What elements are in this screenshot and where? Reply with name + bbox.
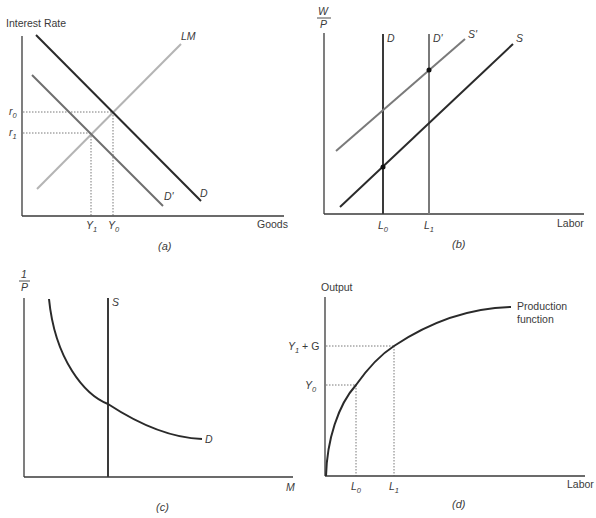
- panel-b-equilibrium-l1: [427, 68, 432, 73]
- panel-d-y1g-tick: Y1 + G: [288, 340, 319, 355]
- panel-c-ylabel-denominator: P: [21, 281, 28, 293]
- panel-a-d-prime-label: D': [164, 190, 175, 202]
- panel-a-lm-curve: [37, 44, 181, 189]
- panel-a-d-curve: [36, 35, 201, 201]
- panel-b-s-label: S: [516, 32, 523, 44]
- panel-c-d-label: D: [205, 433, 213, 445]
- panel-a-r0-tick: r0: [9, 105, 18, 120]
- figure: Interest Rate LM D D' r0 r1 Y1 Y0 Goods …: [0, 0, 596, 518]
- panel-b: W P D D' S' S L0 L1 Labor (b): [317, 5, 584, 250]
- panel-d-ylabel: Output: [321, 281, 353, 293]
- panel-d-production-function-curve: [326, 307, 511, 476]
- panel-c-d-curve: [49, 299, 202, 439]
- panel-c-s-label: S: [112, 296, 119, 308]
- panel-b-s-prime-curve: [336, 39, 465, 151]
- panel-b-ylabel-numerator: W: [318, 5, 329, 17]
- panel-a-r1-tick: r1: [9, 126, 17, 141]
- panel-a-y0-tick: Y0: [108, 219, 120, 234]
- panel-b-ylabel-denominator: P: [320, 18, 327, 30]
- panel-b-equilibrium-l0: [381, 165, 386, 170]
- panel-c-ylabel-numerator: 1: [21, 268, 27, 280]
- panel-d-y0-tick: Y0: [305, 379, 317, 394]
- panel-a-ylabel: Interest Rate: [6, 17, 66, 29]
- panel-d-l1-tick: L1: [389, 480, 399, 495]
- panel-d-curve-label-line1: Production: [517, 300, 567, 312]
- panel-a-y1-tick: Y1: [86, 219, 97, 234]
- panel-a-d-label: D: [200, 187, 208, 199]
- panel-a-d-prime-curve: [32, 75, 163, 206]
- panel-b-d-label: D: [387, 32, 395, 44]
- panel-a-xlabel: Goods: [257, 218, 288, 230]
- panel-b-caption: (b): [452, 238, 466, 250]
- panel-a-caption: (a): [158, 240, 172, 252]
- panel-b-s-prime-label: S': [468, 28, 478, 40]
- panel-c: 1 P S D M (c): [19, 268, 295, 513]
- panel-d: Output Production function Y1 + G Y0 L0 …: [288, 281, 594, 510]
- panel-c-caption: (c): [156, 501, 169, 513]
- panel-b-l0-tick: L0: [378, 219, 389, 234]
- panel-b-l1-tick: L1: [424, 219, 434, 234]
- panel-c-xlabel: M: [286, 481, 295, 493]
- panel-d-l0-tick: L0: [351, 480, 362, 495]
- panel-b-d-prime-label: D': [433, 32, 444, 44]
- panel-a-lm-label: LM: [181, 30, 196, 42]
- panel-b-xlabel: Labor: [557, 217, 584, 229]
- panel-d-curve-label-line2: function: [517, 313, 554, 325]
- panel-d-xlabel: Labor: [567, 478, 594, 490]
- panel-d-caption: (d): [452, 498, 466, 510]
- panel-a: Interest Rate LM D D' r0 r1 Y1 Y0 Goods …: [6, 17, 288, 252]
